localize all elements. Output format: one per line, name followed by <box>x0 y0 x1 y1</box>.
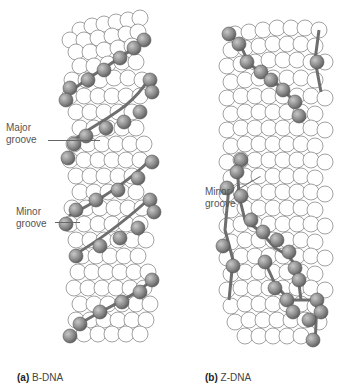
z-dna-space-filling-model <box>205 0 340 362</box>
caption-b-letter: (a) <box>17 372 29 383</box>
minor-groove-leader-line <box>55 222 80 223</box>
caption-b-dna: (a) B-DNA <box>17 372 63 383</box>
caption-z-letter: (b) <box>205 372 218 383</box>
caption-b-name: B-DNA <box>32 372 63 383</box>
b-dna-minor-groove-label: Minor groove <box>16 206 47 230</box>
b-dna-major-groove-label: Major groove <box>6 122 37 146</box>
caption-z-dna: (b) Z-DNA <box>205 372 251 383</box>
dna-comparison-figure: Major groove Minor groove Minor groove (… <box>0 0 343 392</box>
major-groove-leader-line <box>48 140 100 141</box>
caption-z-name: Z-DNA <box>221 372 252 383</box>
b-dna-space-filling-model <box>40 0 180 362</box>
z-dna-minor-groove-label: Minor groove <box>205 186 236 210</box>
